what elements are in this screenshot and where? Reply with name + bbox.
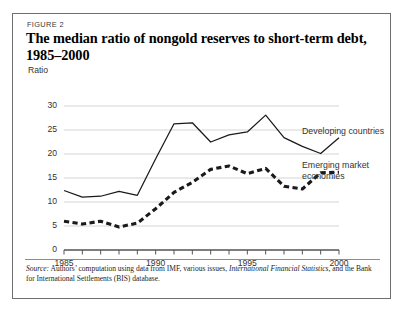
y-tick-label-20: 20 bbox=[27, 148, 57, 158]
source-body-a: Authors’ computation using data from IMF… bbox=[49, 264, 229, 273]
y-tick-label-30: 30 bbox=[27, 100, 57, 110]
y-tick-label-25: 25 bbox=[27, 124, 57, 134]
legend-label-emerging-market-economies: Emerging market economies bbox=[302, 160, 388, 181]
y-tick-label-0: 0 bbox=[27, 244, 57, 254]
x-axis-ticks-group bbox=[64, 250, 339, 255]
y-axis-unit-label: Ratio bbox=[28, 65, 48, 75]
legend-label-developing-countries: Developing countries bbox=[302, 126, 384, 137]
figure-card: FIGURE 2 The median ratio of nongold res… bbox=[12, 13, 391, 299]
source-prefix: Source: bbox=[26, 264, 49, 273]
source-divider bbox=[25, 259, 380, 260]
series-line-developing-countries bbox=[64, 115, 339, 197]
source-italic-title: International Financial Statistics, bbox=[229, 264, 330, 273]
y-tick-label-5: 5 bbox=[27, 220, 57, 230]
figure-number-label: FIGURE 2 bbox=[27, 20, 64, 29]
gridlines-group bbox=[64, 106, 339, 250]
source-note: Source: Authors’ computation using data … bbox=[26, 264, 380, 285]
y-tick-label-10: 10 bbox=[27, 196, 57, 206]
legend-emerging-line1: Emerging market bbox=[302, 160, 369, 170]
series-line-emerging-market-economies bbox=[64, 166, 339, 227]
y-tick-label-15: 15 bbox=[27, 172, 57, 182]
legend-emerging-line2: economies bbox=[302, 171, 345, 181]
figure-title: The median ratio of nongold reserves to … bbox=[26, 30, 378, 63]
